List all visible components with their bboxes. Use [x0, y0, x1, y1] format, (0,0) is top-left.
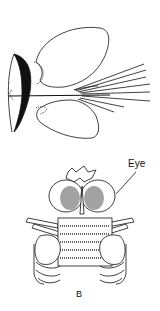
lateral-view-drawing: [8, 27, 150, 138]
dorsal-view-drawing: [26, 166, 136, 284]
illustration: [0, 0, 160, 311]
panel-label: B: [76, 289, 82, 299]
eye-label: Eye: [128, 158, 145, 169]
